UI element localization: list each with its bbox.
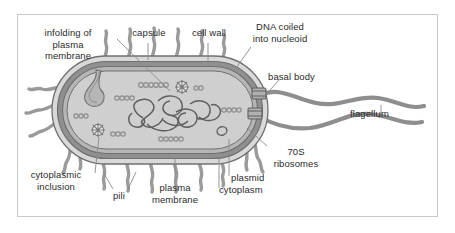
label-plasma-membrane: plasma membrane xyxy=(140,182,210,205)
label-plasmid: plasmid xyxy=(231,172,283,184)
label-cytoplasm: cytoplasm xyxy=(219,184,283,196)
cytoplasmic-inclusion-upper xyxy=(175,80,189,94)
label-pili: pili xyxy=(107,190,131,202)
label-70s-ribosomes: 70S ribosomes xyxy=(265,146,327,169)
label-capsule: capsule xyxy=(120,27,178,39)
label-flagellum: flagellum xyxy=(350,108,412,120)
label-basal-body: basal body xyxy=(268,71,336,83)
flagellum-upper xyxy=(262,92,424,107)
cytoplasmic-inclusion-lower xyxy=(91,123,105,137)
label-cell-wall: cell wall xyxy=(180,27,238,39)
label-dna-coiled-into-nucleoid: DNA coiled into nucleoid xyxy=(240,21,320,44)
figure-root: infolding of plasma membrane capsule cel… xyxy=(0,0,455,233)
label-cytoplasmic-inclusion: cytoplasmic inclusion xyxy=(18,169,94,192)
basal-body-lower xyxy=(248,108,262,119)
label-infolding-of-plasma-membrane: infolding of plasma membrane xyxy=(22,27,114,62)
